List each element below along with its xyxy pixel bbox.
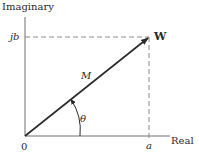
angle-arc bbox=[71, 100, 80, 137]
vector-w bbox=[25, 38, 148, 136]
a-label: a bbox=[146, 141, 152, 151]
diagram-canvas bbox=[0, 0, 199, 155]
w-label: W bbox=[154, 31, 166, 42]
theta-label: θ bbox=[80, 114, 86, 124]
phasor-diagram: Imaginary jb W M θ 0 a Real bbox=[0, 0, 199, 155]
origin-label: 0 bbox=[21, 142, 27, 152]
m-label: M bbox=[81, 71, 91, 81]
jb-label: jb bbox=[10, 32, 20, 42]
x-axis-label: Real bbox=[171, 136, 194, 146]
y-axis-label: Imaginary bbox=[2, 2, 54, 12]
